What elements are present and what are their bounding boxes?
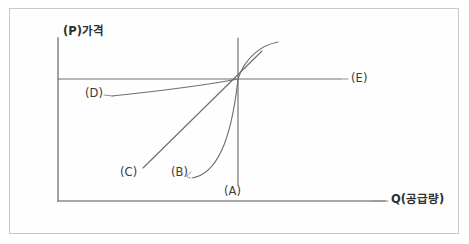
supply-curve-figure: (P)가격 Q(공급량) (A) (B) (C) (D) (E)	[0, 0, 469, 244]
curve-label-c: (C)	[120, 167, 137, 179]
curve-b-inelastic	[192, 42, 278, 178]
curve-label-e: (E)	[351, 73, 368, 85]
x-axis-label: Q(공급량)	[391, 194, 444, 206]
curve-label-d: (D)	[85, 88, 103, 100]
leader-line-d	[104, 95, 113, 96]
curve-label-b: (B)	[171, 167, 188, 179]
curve-c-linear	[143, 51, 262, 168]
y-axis-label: (P)가격	[63, 26, 104, 38]
curve-label-a: (A)	[224, 186, 241, 198]
